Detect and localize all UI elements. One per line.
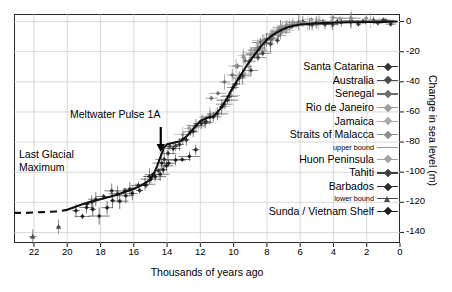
- legend-label: lower bound: [334, 193, 374, 204]
- legend-item-lower-bound[interactable]: lower bound: [232, 193, 398, 204]
- legend-item-barbados[interactable]: Barbados: [232, 180, 398, 194]
- legend-marker-diamond-icon: [377, 75, 398, 86]
- y-tick--60: -60: [406, 105, 420, 116]
- y-tick--20: -20: [406, 45, 420, 56]
- legend-marker-diamond-icon: [377, 88, 398, 99]
- y-tick--120: -120: [406, 195, 425, 206]
- legend-marker-diamond-icon: [377, 167, 398, 178]
- x-tick-16: 16: [123, 246, 145, 257]
- legend-marker-diamond-icon: [377, 181, 398, 192]
- legend-label: Jamaica: [335, 116, 374, 127]
- legend-item-tahiti[interactable]: Tahiti: [232, 166, 398, 180]
- sea-level-chart: 2220181614121086420 0-20-40-60-80-100-12…: [0, 0, 452, 292]
- legend-label: Senegal: [335, 88, 374, 99]
- x-tick-8: 8: [256, 246, 278, 257]
- x-axis-title: Thousands of years ago: [0, 266, 414, 278]
- legend-label: Tahiti: [349, 167, 374, 178]
- legend-item-rio-de-janeiro[interactable]: Rio de Janeiro: [232, 101, 398, 115]
- x-tick-4: 4: [322, 246, 344, 257]
- legend-label: Sunda / Vietnam Shelf: [269, 206, 374, 217]
- annotation-meltwater-pulse-1a: Meltwater Pulse 1A: [70, 108, 160, 120]
- x-tick-0: 0: [389, 246, 411, 257]
- y-tick--40: -40: [406, 75, 420, 86]
- legend-label: upper bound: [333, 142, 374, 153]
- legend-item-jamaica[interactable]: Jamaica: [232, 114, 398, 128]
- legend-item-huon-peninsula[interactable]: Huon Peninsula: [232, 153, 398, 167]
- y-tick--100: -100: [406, 165, 425, 176]
- y-axis-title: Change in sea level (m): [425, 20, 441, 240]
- legend-label: Straits of Malacca: [290, 129, 374, 140]
- legend-item-upper-bound[interactable]: upper bound: [232, 142, 398, 153]
- lgm-line-1: Last Glacial: [19, 148, 74, 161]
- annotation-last-glacial-maximum: Last Glacial Maximum: [19, 148, 74, 173]
- x-tick-14: 14: [156, 246, 178, 257]
- legend-marker-bar-icon: [377, 142, 398, 153]
- legend-marker-diamond-icon: [377, 206, 398, 217]
- legend-item-straits-of-malacca[interactable]: Straits of Malacca: [232, 128, 398, 142]
- legend-label: Rio de Janeiro: [306, 102, 374, 113]
- legend-label: Barbados: [329, 181, 374, 192]
- x-tick-12: 12: [189, 246, 211, 257]
- legend-marker-diamond-icon: [377, 61, 398, 72]
- x-tick-10: 10: [223, 246, 245, 257]
- legend-marker-diamond-icon: [377, 116, 398, 127]
- y-tick--80: -80: [406, 135, 420, 146]
- legend-label: Santa Catarina: [303, 61, 374, 72]
- legend-marker-diamond-icon: [377, 129, 398, 140]
- x-tick-2: 2: [356, 246, 378, 257]
- legend-item-santa-catarina[interactable]: Santa Catarina: [232, 60, 398, 74]
- lgm-line-2: Maximum: [19, 161, 74, 174]
- y-tick--140: -140: [406, 225, 425, 236]
- legend-item-senegal[interactable]: Senegal: [232, 87, 398, 101]
- legend-label: Huon Peninsula: [299, 154, 374, 165]
- legend-marker-diamond-icon: [377, 102, 398, 113]
- x-tick-22: 22: [23, 246, 45, 257]
- legend: Santa CatarinaAustraliaSenegalRio de Jan…: [232, 60, 398, 218]
- x-tick-20: 20: [56, 246, 78, 257]
- x-tick-18: 18: [90, 246, 112, 257]
- legend-marker-diamond-icon: [377, 154, 398, 165]
- legend-marker-triangle-icon: [377, 193, 398, 204]
- legend-item-australia[interactable]: Australia: [232, 74, 398, 88]
- x-tick-6: 6: [289, 246, 311, 257]
- legend-label: Australia: [333, 75, 374, 86]
- legend-item-sunda-vietnam-shelf[interactable]: Sunda / Vietnam Shelf: [232, 204, 398, 218]
- y-tick-0: 0: [406, 15, 411, 26]
